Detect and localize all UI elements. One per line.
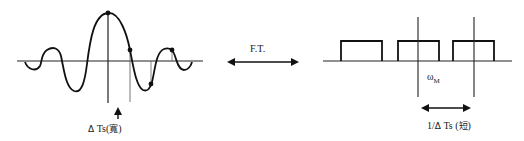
ft-label: F.T.: [250, 44, 265, 54]
time-domain-panel: [17, 11, 203, 119]
omega-m-label: ωM: [427, 72, 440, 85]
omega-symbol: ω: [427, 71, 434, 82]
sample-point: [106, 11, 111, 16]
sample-point: [149, 82, 154, 87]
short-cjk-text: 短: [459, 121, 468, 131]
sample-point: [128, 48, 133, 53]
delta-ts-wide-label: Δ Ts(寬): [88, 124, 122, 134]
prefix-text: 1/: [427, 120, 435, 131]
close-paren: ): [468, 120, 471, 131]
inverse-delta-ts-short-label: 1/Δ Ts (短): [427, 121, 471, 131]
close-paren: ): [118, 123, 121, 134]
wide-cjk-text: 寬: [109, 124, 118, 134]
sample-point: [170, 48, 175, 53]
omega-subscript: M: [434, 77, 440, 85]
spectrum-rect: [341, 41, 382, 61]
ts-text: Ts(: [94, 123, 109, 134]
frequency-domain-panel: [323, 17, 512, 108]
ts-text: Ts (: [441, 120, 459, 131]
